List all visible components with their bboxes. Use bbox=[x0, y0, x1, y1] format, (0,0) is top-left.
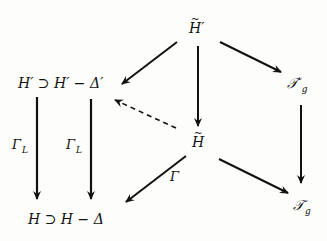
label-gamma-l-right: ΓL bbox=[66, 137, 82, 152]
commutative-diagram: ~ H′ H′ ⊃ H′ − Δ′ 𝒯'g ~ H H ⊃ H − Δ 𝒯g Γ… bbox=[0, 0, 327, 241]
label-gamma-l-left: ΓL bbox=[12, 137, 28, 152]
node-h-minus-delta: H ⊃ H − Δ bbox=[28, 212, 104, 226]
arrow-htildeprime-to-hprime bbox=[122, 42, 177, 84]
label-base: Γ bbox=[66, 137, 75, 152]
tilde-accent: ~ bbox=[194, 128, 202, 138]
label-gamma: Γ bbox=[170, 169, 179, 184]
label-sub: L bbox=[22, 145, 28, 155]
label-sub: L bbox=[76, 145, 82, 155]
diagram-arrows bbox=[0, 0, 327, 241]
node-t-prime-g: 𝒯'g bbox=[287, 76, 308, 90]
arrow-htildeprime-to-tprimeg bbox=[220, 42, 281, 72]
tilde-accent: ~ bbox=[191, 14, 199, 24]
node-prime: ′ bbox=[201, 20, 204, 36]
label-base: Γ bbox=[12, 137, 21, 152]
node-h-tilde-prime: ~ H′ bbox=[189, 21, 204, 35]
node-h-prime-minus-delta-prime: H′ ⊃ H′ − Δ′ bbox=[18, 76, 103, 90]
node-h-tilde: ~ H bbox=[192, 135, 204, 149]
arrow-htilde-to-tg bbox=[219, 159, 288, 193]
node-base: 𝒯 bbox=[287, 75, 298, 91]
node-t-g: 𝒯g bbox=[293, 198, 311, 212]
node-prime: ' bbox=[298, 75, 301, 86]
node-base: 𝒯 bbox=[293, 197, 304, 213]
arrow-htilde-to-hprime-dashed bbox=[115, 100, 176, 128]
node-sub: g bbox=[305, 206, 311, 216]
node-sub: g bbox=[302, 84, 308, 94]
